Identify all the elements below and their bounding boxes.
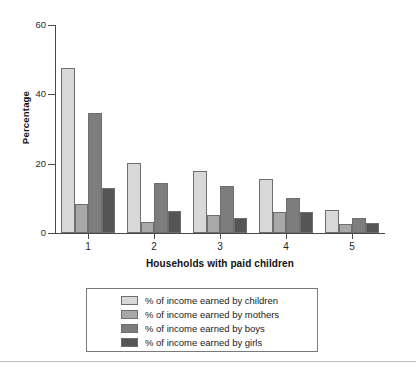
bar bbox=[366, 223, 380, 233]
x-tick-1 bbox=[88, 233, 89, 239]
x-tick-label: 1 bbox=[68, 242, 108, 252]
legend-label: % of income earned by mothers bbox=[145, 310, 279, 320]
bar bbox=[259, 179, 273, 233]
bar bbox=[325, 210, 339, 233]
x-tick-3 bbox=[220, 233, 221, 239]
bar bbox=[193, 171, 207, 233]
legend-swatch-icon bbox=[121, 324, 138, 333]
legend-label: % of income earned by children bbox=[145, 296, 278, 306]
bottom-divider bbox=[0, 361, 416, 362]
x-tick-4 bbox=[286, 233, 287, 239]
y-axis-title: Percentage bbox=[20, 63, 31, 173]
bar bbox=[207, 215, 221, 233]
bar bbox=[102, 188, 116, 233]
legend-item: % of income earned by children bbox=[121, 294, 317, 307]
legend-swatch-icon bbox=[121, 296, 138, 305]
x-tick-label: 2 bbox=[134, 242, 174, 252]
plot-area bbox=[55, 25, 385, 233]
x-tick-label: 5 bbox=[332, 242, 372, 252]
y-tick-label: 0 bbox=[14, 228, 46, 238]
y-tick-40 bbox=[48, 94, 55, 95]
x-tick-5 bbox=[352, 233, 353, 239]
chart-legend: % of income earned by children% of incom… bbox=[86, 288, 318, 352]
bar bbox=[168, 211, 182, 233]
y-tick-20 bbox=[48, 164, 55, 165]
legend-label: % of income earned by girls bbox=[145, 338, 262, 348]
bar bbox=[141, 222, 155, 233]
bar bbox=[234, 218, 248, 233]
x-tick-label: 4 bbox=[266, 242, 306, 252]
y-tick-60 bbox=[48, 25, 55, 26]
bar bbox=[154, 183, 168, 233]
bar bbox=[61, 68, 75, 233]
bar bbox=[352, 218, 366, 233]
bar bbox=[286, 198, 300, 233]
y-tick-label: 60 bbox=[14, 20, 46, 30]
x-tick-label: 3 bbox=[200, 242, 240, 252]
bar bbox=[88, 113, 102, 233]
bar bbox=[127, 163, 141, 233]
bar bbox=[75, 204, 89, 233]
y-tick-0 bbox=[48, 233, 55, 234]
legend-swatch-icon bbox=[121, 338, 138, 347]
bar bbox=[339, 224, 353, 233]
bar-chart-figure: 0204060 12345 Percentage Households with… bbox=[0, 0, 416, 369]
legend-item: % of income earned by girls bbox=[121, 336, 317, 349]
legend-swatch-icon bbox=[121, 310, 138, 319]
legend-item: % of income earned by mothers bbox=[121, 308, 317, 321]
x-axis-title: Households with paid children bbox=[55, 258, 385, 269]
bar bbox=[220, 186, 234, 233]
legend-label: % of income earned by boys bbox=[145, 324, 265, 334]
bar bbox=[300, 212, 314, 233]
x-tick-2 bbox=[154, 233, 155, 239]
legend-item: % of income earned by boys bbox=[121, 322, 317, 335]
bar bbox=[273, 212, 287, 233]
